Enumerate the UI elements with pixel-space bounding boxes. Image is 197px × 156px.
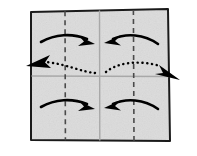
center-crease-horizontal [32,76,170,77]
origami-diagram: Origami paper fold step diagram A square… [0,0,197,156]
paper-texture-overlay [31,9,170,141]
diagram-canvas [0,0,197,156]
paper-sheet [31,9,170,141]
quarter-fold-right [133,10,134,141]
